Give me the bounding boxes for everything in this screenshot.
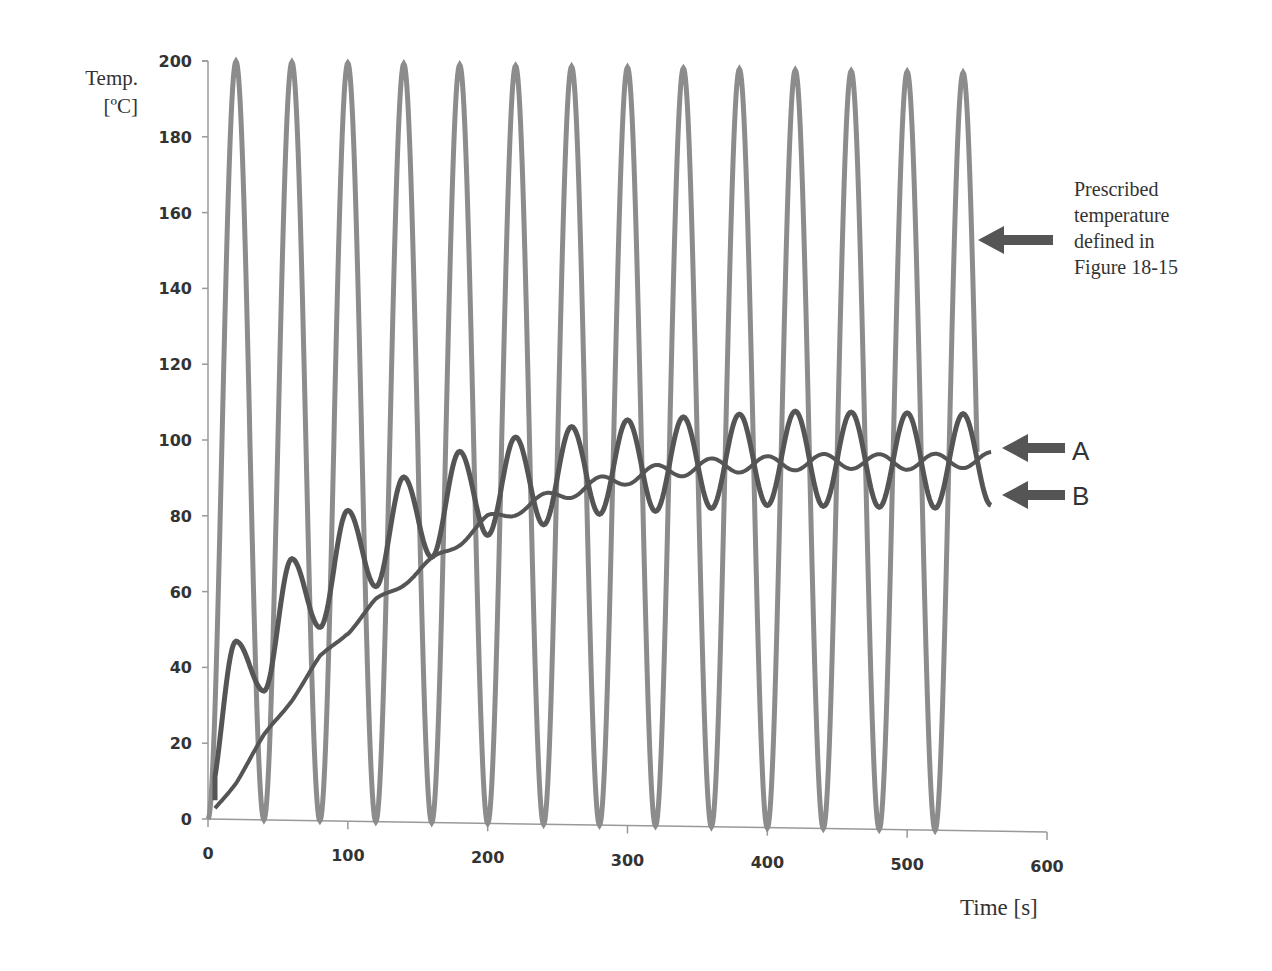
x-tick-label: 500	[890, 855, 923, 874]
arrow-prescribed-icon	[978, 226, 1004, 254]
arrow-a-icon	[1002, 434, 1028, 462]
y-tick-label: 120	[159, 355, 192, 374]
y-tick-label: 20	[170, 734, 192, 753]
y-tick-label: 100	[159, 431, 192, 450]
x-tick-label: 200	[471, 848, 504, 867]
arrow-b-icon	[1002, 481, 1028, 509]
x-tick-label: 600	[1030, 857, 1063, 876]
series-group	[208, 61, 991, 830]
y-tick-label: 180	[159, 128, 192, 147]
y-tick-label: 40	[170, 658, 192, 677]
x-tick-label: 400	[751, 853, 784, 872]
label-a: A	[1072, 436, 1090, 466]
x-tick-label: 300	[611, 851, 644, 870]
y-tick-label: 80	[170, 507, 192, 526]
y-tick-label: 160	[159, 204, 192, 223]
y-tick-label: 0	[181, 810, 192, 829]
y-tick-label: 60	[170, 583, 192, 602]
x-tick-label: 100	[331, 846, 364, 865]
label-b: B	[1072, 481, 1089, 511]
x-tick-label: 0	[202, 844, 213, 863]
line-chart: 0204060801001201401601802000100200300400…	[0, 0, 1272, 971]
y-tick-label: 200	[159, 52, 192, 71]
y-tick-label: 140	[159, 279, 192, 298]
annotation-arrows	[978, 226, 1065, 509]
